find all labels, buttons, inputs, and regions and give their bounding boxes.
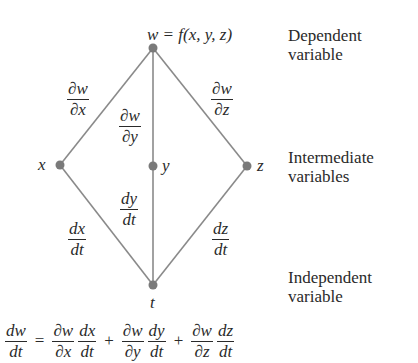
- node-label-x: x: [38, 156, 46, 173]
- eq-term1-partial: ∂w ∂x: [52, 322, 74, 361]
- plus-sign: +: [104, 331, 114, 351]
- level-dependent-line1: Dependent: [288, 26, 362, 45]
- level-dependent: Dependent variable: [288, 26, 362, 64]
- node-x: [56, 161, 65, 170]
- edge-label-w-y: ∂w ∂y: [119, 107, 141, 146]
- node-y: [149, 162, 158, 171]
- frac-den: dt: [69, 241, 84, 259]
- eq-lhs: dw dt: [5, 322, 27, 361]
- frac-num: dx: [78, 322, 96, 340]
- frac-den: dt: [149, 343, 164, 361]
- level-intermediate-line1: Intermediate: [288, 148, 374, 167]
- level-independent: Independent variable: [288, 268, 372, 306]
- frac-den: dt: [8, 343, 23, 361]
- frac-num: dx: [68, 220, 86, 238]
- edge-label-z-t: dz dt: [212, 220, 229, 259]
- frac-den: ∂x: [69, 101, 87, 119]
- frac-num: dz: [212, 220, 229, 238]
- frac-num: ∂w: [67, 80, 89, 98]
- frac-den: dt: [218, 343, 233, 361]
- node-label-t: t: [150, 294, 155, 311]
- equals-sign: =: [35, 331, 45, 351]
- eq-term3-derivative: dz dt: [217, 322, 234, 361]
- frac-num: dy: [120, 190, 138, 208]
- edge-label-y-t: dy dt: [120, 190, 138, 229]
- frac-num: ∂w: [119, 107, 141, 125]
- node-w: [149, 44, 158, 53]
- node-label-w: w = f(x, y, z): [147, 26, 232, 43]
- frac-num: ∂w: [211, 80, 233, 98]
- frac-den: ∂z: [213, 101, 230, 119]
- edge-label-w-x: ∂w ∂x: [67, 80, 89, 119]
- frac-den: ∂y: [121, 128, 139, 146]
- chain-rule-equation: dw dt = ∂w ∂x dx dt + ∂w ∂y dy dt + ∂w ∂…: [3, 322, 236, 361]
- frac-num: ∂w: [191, 322, 213, 340]
- eq-term3-partial: ∂w ∂z: [191, 322, 213, 361]
- plus-sign: +: [174, 331, 184, 351]
- edge-label-w-z: ∂w ∂z: [211, 80, 233, 119]
- level-independent-line1: Independent: [288, 268, 372, 287]
- frac-den: dt: [121, 211, 136, 229]
- frac-num: ∂w: [122, 322, 144, 340]
- frac-den: ∂y: [124, 343, 142, 361]
- node-z: [243, 162, 252, 171]
- frac-den: ∂x: [54, 343, 72, 361]
- frac-den: ∂z: [194, 343, 211, 361]
- level-independent-line2: variable: [288, 287, 372, 306]
- eq-term2-partial: ∂w ∂y: [122, 322, 144, 361]
- eq-term2-derivative: dy dt: [148, 322, 166, 361]
- eq-term1-derivative: dx dt: [78, 322, 96, 361]
- node-label-y: y: [162, 157, 170, 174]
- frac-den: dt: [80, 343, 95, 361]
- frac-den: dt: [213, 241, 228, 259]
- frac-num: ∂w: [52, 322, 74, 340]
- level-intermediate-line2: variables: [288, 167, 374, 186]
- frac-num: dw: [5, 322, 27, 340]
- edge-w-z: [153, 48, 247, 166]
- frac-num: dy: [148, 322, 166, 340]
- edge-z-t: [153, 166, 247, 285]
- level-dependent-line2: variable: [288, 45, 362, 64]
- frac-num: dz: [217, 322, 234, 340]
- node-label-z: z: [257, 157, 264, 174]
- node-t: [149, 281, 158, 290]
- level-intermediate: Intermediate variables: [288, 148, 374, 186]
- edge-label-x-t: dx dt: [68, 220, 86, 259]
